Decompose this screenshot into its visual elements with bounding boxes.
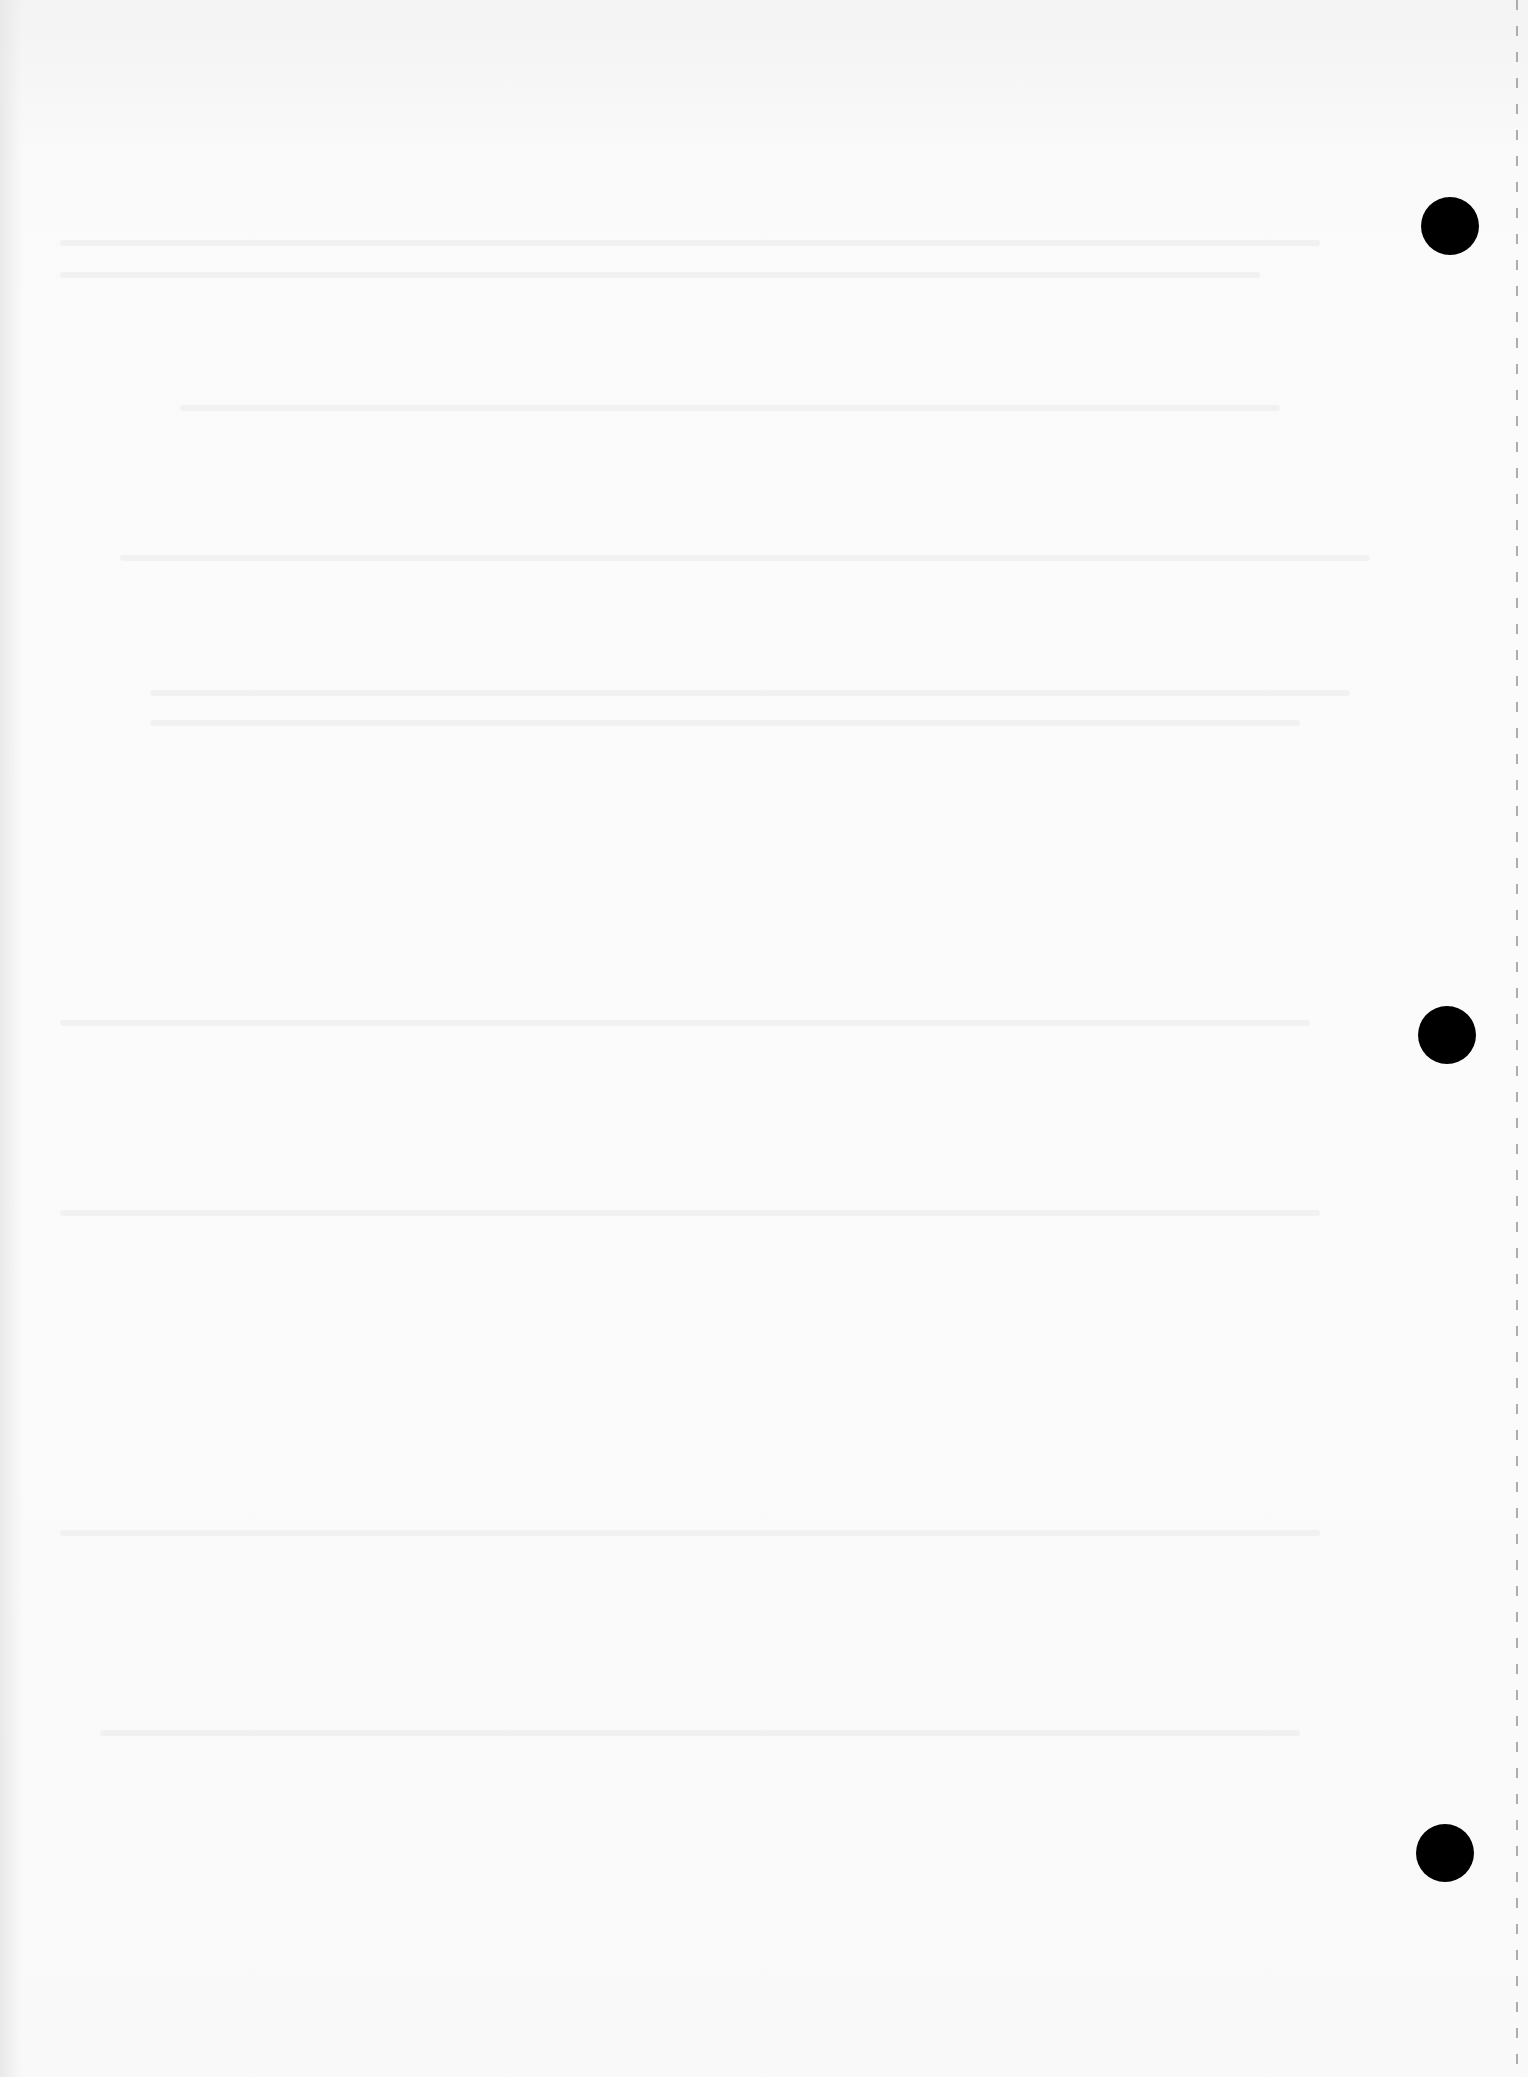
perforated-edge [1516,0,1518,2077]
punch-hole-top [1421,197,1479,255]
bleed-through-mark [60,240,1320,246]
bleed-through-mark [60,1020,1310,1026]
bleed-through-mark [150,720,1300,726]
bleed-through-mark [60,1210,1320,1216]
punch-hole-bottom [1416,1824,1474,1882]
blank-paper-page [0,0,1528,2077]
bleed-through-mark [150,690,1350,696]
bleed-through-mark [120,555,1370,561]
bleed-through-mark [100,1730,1300,1736]
bleed-through-mark [180,405,1280,411]
punch-hole-middle [1418,1006,1476,1064]
bleed-through-mark [60,272,1260,278]
bleed-through-mark [60,1530,1320,1536]
